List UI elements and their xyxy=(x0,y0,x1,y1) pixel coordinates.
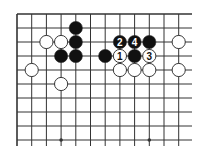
white-stone xyxy=(25,63,38,76)
black-stone-icon xyxy=(69,49,82,62)
grid-lines xyxy=(17,14,192,146)
black-stone-icon xyxy=(99,49,112,62)
white-stone-move-1: 1 xyxy=(113,49,126,62)
white-stone xyxy=(172,63,185,76)
white-stone-icon xyxy=(55,77,68,90)
white-stone xyxy=(172,35,185,48)
move-number-label: 4 xyxy=(132,37,138,48)
white-stone-icon xyxy=(143,63,156,76)
move-number-label: 3 xyxy=(147,51,153,62)
white-stone xyxy=(55,77,68,90)
black-stone-icon xyxy=(128,49,141,62)
go-board: 2413 xyxy=(0,0,205,159)
black-stone xyxy=(55,49,68,62)
white-stone-icon xyxy=(172,35,185,48)
white-stone xyxy=(113,63,126,76)
white-stone-move-3: 3 xyxy=(143,49,156,62)
star-point-icon xyxy=(148,138,152,142)
black-stone xyxy=(99,49,112,62)
white-stone-icon xyxy=(172,63,185,76)
black-stone-icon xyxy=(55,49,68,62)
black-stone-icon xyxy=(69,21,82,34)
white-stone xyxy=(40,35,53,48)
white-stone-icon xyxy=(128,63,141,76)
move-number-label: 1 xyxy=(117,51,123,62)
white-stone-icon xyxy=(55,35,68,48)
white-stone-icon xyxy=(40,35,53,48)
black-stone xyxy=(69,49,82,62)
black-stone xyxy=(143,35,156,48)
black-stone-move-2: 2 xyxy=(113,35,126,48)
white-stone xyxy=(143,63,156,76)
go-board-canvas: 2413 xyxy=(0,0,205,159)
black-stone-icon xyxy=(69,35,82,48)
white-stone-icon xyxy=(113,63,126,76)
black-stone xyxy=(69,21,82,34)
white-stone-icon xyxy=(25,63,38,76)
black-stone-icon xyxy=(143,35,156,48)
star-point-icon xyxy=(59,138,63,142)
black-stone xyxy=(128,49,141,62)
white-stone xyxy=(55,35,68,48)
black-stone xyxy=(69,35,82,48)
move-number-label: 2 xyxy=(117,37,123,48)
black-stone-move-4: 4 xyxy=(128,35,141,48)
white-stone xyxy=(128,63,141,76)
